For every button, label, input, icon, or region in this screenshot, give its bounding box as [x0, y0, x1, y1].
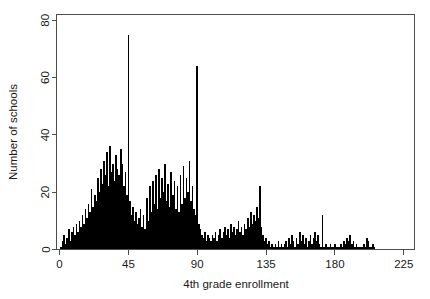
- histogram-bar: [304, 244, 306, 250]
- x-tick-label: 135: [257, 258, 276, 270]
- histogram-bar: [144, 229, 146, 249]
- histogram-bar: [190, 201, 192, 250]
- histogram-bar: [212, 235, 214, 249]
- histogram-bars: [60, 35, 375, 250]
- histogram-bar: [196, 66, 198, 249]
- histogram-bar: [368, 241, 370, 250]
- histogram-bar: [239, 232, 241, 249]
- histogram-bar: [284, 244, 286, 250]
- histogram-bar: [94, 195, 96, 249]
- histogram-bar: [281, 244, 283, 250]
- histogram-bar: [151, 212, 153, 249]
- histogram-bar: [313, 238, 315, 249]
- histogram-bar: [278, 241, 280, 250]
- histogram-bar: [106, 152, 108, 249]
- histogram-bar: [291, 235, 293, 249]
- histogram-bar: [111, 172, 113, 249]
- histogram-bar: [85, 209, 87, 249]
- histogram-bar: [227, 229, 229, 249]
- histogram-bar: [96, 201, 98, 250]
- y-tick-label: 60: [40, 71, 52, 84]
- histogram-bar: [177, 186, 179, 249]
- histogram-bar: [351, 244, 353, 250]
- histogram-bar: [183, 166, 185, 249]
- histogram-bar: [68, 229, 70, 249]
- histogram-bar: [219, 229, 221, 249]
- histogram-bar: [187, 192, 189, 249]
- histogram-bar: [302, 235, 304, 249]
- histogram-bar: [114, 181, 116, 250]
- histogram-bar: [141, 227, 143, 250]
- y-axis-ticks: 020406080: [40, 14, 57, 253]
- histogram-bar: [108, 186, 110, 249]
- histogram-bar: [242, 235, 244, 249]
- histogram-bar: [244, 224, 246, 250]
- histogram-bar: [63, 235, 65, 249]
- histogram-bar: [79, 221, 81, 250]
- histogram-bar: [65, 244, 67, 250]
- histogram-bar: [261, 227, 263, 250]
- histogram-bar: [86, 218, 88, 250]
- x-tick-label: 225: [394, 258, 413, 270]
- histogram-bar: [195, 215, 197, 249]
- histogram-bar: [73, 227, 75, 250]
- histogram-bar: [70, 241, 72, 250]
- histogram-bar: [297, 244, 299, 250]
- histogram-bar: [353, 241, 355, 250]
- histogram-bar: [216, 241, 218, 250]
- histogram-bar: [172, 195, 174, 249]
- histogram-bar: [346, 238, 348, 249]
- histogram-bar: [330, 244, 332, 250]
- histogram-bar: [285, 241, 287, 250]
- histogram-bar: [356, 244, 358, 250]
- histogram-bar: [296, 238, 298, 249]
- histogram-bar: [210, 241, 212, 250]
- histogram-bar: [259, 186, 261, 249]
- histogram-bar: [189, 161, 191, 250]
- histogram-bar: [135, 212, 137, 249]
- histogram-bar: [232, 232, 234, 249]
- histogram-bar: [233, 227, 235, 250]
- histogram-bar: [249, 227, 251, 250]
- histogram-bar: [112, 164, 114, 250]
- histogram-bar: [62, 241, 64, 250]
- histogram-bar: [198, 224, 200, 250]
- histogram-bar: [175, 209, 177, 249]
- histogram-bar: [204, 232, 206, 249]
- histogram-bar: [267, 244, 269, 250]
- histogram-bar: [349, 235, 351, 249]
- histogram-bar: [102, 184, 104, 250]
- x-tick-label: 0: [56, 258, 62, 270]
- histogram-bar: [235, 235, 237, 249]
- histogram-bar: [224, 227, 226, 250]
- histogram-bar: [348, 241, 350, 250]
- histogram-bar: [250, 212, 252, 249]
- histogram-bar: [218, 235, 220, 249]
- histogram-bar: [264, 241, 266, 250]
- histogram-bar: [256, 207, 258, 250]
- histogram-bar: [166, 201, 168, 250]
- histogram-bar: [149, 186, 151, 249]
- histogram-bar: [186, 178, 188, 250]
- y-tick-label: 20: [40, 186, 52, 199]
- histogram-bar: [255, 221, 257, 250]
- histogram-bar: [152, 181, 154, 250]
- histogram-bar: [181, 204, 183, 250]
- histogram-bar: [238, 221, 240, 250]
- histogram-bar: [193, 209, 195, 249]
- histogram-bar: [340, 244, 342, 250]
- histogram-bar: [325, 244, 327, 250]
- histogram-bar: [293, 241, 295, 250]
- histogram-bar: [74, 235, 76, 249]
- histogram-bar: [174, 181, 176, 250]
- histogram-bar: [310, 235, 312, 249]
- histogram-bar: [245, 229, 247, 249]
- histogram-bar: [209, 238, 211, 249]
- histogram-bar: [299, 232, 301, 249]
- histogram-bar: [132, 207, 134, 250]
- histogram-bar: [366, 238, 368, 249]
- histogram-bar: [229, 238, 231, 249]
- histogram-bar: [311, 244, 313, 250]
- histogram-bar: [201, 235, 203, 249]
- histogram-bar: [71, 232, 73, 249]
